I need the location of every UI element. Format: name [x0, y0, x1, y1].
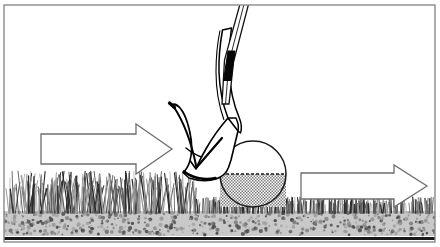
- soil-speck: [45, 232, 49, 236]
- soil-speck: [334, 230, 336, 232]
- soil-speck: [86, 213, 89, 216]
- soil-speck: [52, 223, 56, 227]
- soil-speck: [407, 212, 409, 214]
- soil-speck: [23, 233, 26, 236]
- soil-speck: [197, 215, 199, 217]
- soil-speck: [81, 215, 83, 217]
- grass-blade-tall: [83, 188, 84, 213]
- soil-speck: [92, 227, 94, 229]
- soil-speck: [358, 218, 361, 221]
- soil-speck: [81, 229, 85, 233]
- soil-speck: [45, 226, 47, 228]
- soil-layer: [0, 210, 440, 236]
- soil-speck: [368, 215, 370, 217]
- soil-speck: [100, 225, 104, 229]
- soil-speck: [108, 214, 112, 218]
- soil-speck: [13, 223, 15, 225]
- soil-speck: [292, 220, 296, 224]
- soil-speck: [122, 220, 126, 224]
- soil-speck: [127, 221, 130, 224]
- soil-speck: [416, 218, 418, 220]
- soil-speck: [382, 223, 385, 226]
- soil-speck: [171, 216, 175, 220]
- soil-speck: [307, 212, 310, 215]
- soil-speck: [153, 226, 157, 230]
- soil-speck: [364, 234, 366, 236]
- soil-speck: [189, 218, 192, 221]
- soil-speck: [238, 215, 240, 217]
- soil-speck: [97, 233, 100, 236]
- soil-speck: [314, 227, 316, 229]
- soil-speck: [262, 221, 266, 225]
- soil-speck: [137, 217, 140, 220]
- soil-speck: [264, 227, 268, 231]
- grass-blade-short: [370, 203, 371, 213]
- soil-speck: [143, 227, 146, 230]
- soil-speck: [110, 230, 114, 234]
- soil-speck: [289, 230, 293, 234]
- soil-speck: [6, 214, 8, 216]
- soil-speck: [413, 233, 416, 236]
- soil-speck: [226, 215, 228, 217]
- soil-speck: [54, 213, 58, 217]
- soil-speck: [208, 222, 211, 225]
- soil-speck: [114, 218, 116, 220]
- soil-speck: [173, 221, 176, 224]
- soil-speck: [320, 221, 322, 223]
- soil-speck: [190, 230, 192, 232]
- soil-speck: [67, 225, 69, 227]
- soil-speck: [133, 233, 135, 235]
- soil-speck: [49, 225, 51, 227]
- soil-speck: [208, 216, 210, 218]
- soil-speck: [172, 234, 174, 236]
- illustration-canvas: [0, 0, 440, 247]
- grass-blade-short: [338, 202, 339, 214]
- soil-speck: [355, 221, 357, 223]
- soil-speck: [391, 229, 394, 232]
- soil-speck: [280, 232, 282, 234]
- soil-speck: [167, 230, 170, 233]
- soil-speck: [374, 233, 377, 236]
- soil-speck: [144, 217, 147, 220]
- soil-speck: [126, 218, 129, 221]
- soil-speck: [105, 220, 107, 222]
- soil-speck: [424, 219, 428, 223]
- grass-blade-tall: [115, 185, 116, 213]
- soil-speck: [21, 221, 25, 225]
- soil-speck: [370, 231, 373, 234]
- soil-speck: [44, 220, 48, 224]
- soil-speck: [195, 214, 198, 217]
- soil-speck: [36, 221, 39, 224]
- grass-blade-short: [342, 200, 343, 213]
- soil-speck: [254, 222, 256, 224]
- soil-speck: [159, 229, 161, 231]
- soil-speck: [261, 227, 263, 229]
- soil-speck: [388, 214, 391, 217]
- soil-speck: [158, 232, 162, 236]
- soil-speck: [407, 219, 409, 221]
- soil-speck: [347, 219, 349, 221]
- soil-speck: [277, 215, 280, 218]
- soil-speck: [189, 214, 191, 216]
- soil-speck: [409, 229, 412, 232]
- soil-speck: [171, 221, 173, 223]
- soil-speck: [49, 218, 53, 222]
- soil-speck: [192, 232, 194, 234]
- soil-speck: [381, 218, 383, 220]
- soil-speck: [116, 225, 118, 227]
- soil-speck: [125, 226, 127, 228]
- soil-speck: [245, 230, 248, 233]
- soil-speck: [347, 222, 351, 226]
- soil-speck: [254, 227, 258, 231]
- soil-speck: [416, 231, 417, 232]
- soil-speck: [290, 218, 293, 221]
- soil-speck: [324, 217, 328, 221]
- soil-speck: [428, 222, 430, 224]
- soil-speck: [257, 215, 260, 218]
- soil-speck: [91, 219, 94, 222]
- grass-blade-tall: [155, 173, 156, 213]
- soil-speck: [159, 223, 163, 227]
- soil-speck: [89, 230, 91, 232]
- soil-speck: [101, 222, 104, 225]
- soil-speck: [131, 222, 134, 225]
